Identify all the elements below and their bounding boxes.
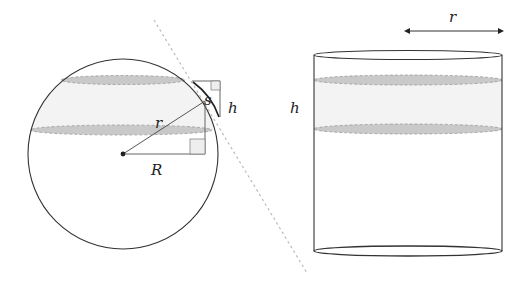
label-h-cylinder: h	[290, 99, 300, 117]
cylinder-bottom-ellipse	[314, 246, 502, 256]
label-s: s	[204, 91, 212, 109]
sphere-center-dot	[121, 152, 126, 157]
cylinder-zone-top-ellipse	[314, 75, 502, 85]
cylinder-zone-band	[314, 80, 502, 129]
label-r-cylinder: r	[449, 8, 457, 26]
label-r-sphere: r	[155, 114, 163, 132]
cylinder-zone-bottom-ellipse	[314, 124, 502, 134]
cylinder-top-ellipse	[314, 51, 502, 60]
sphere-zone-top-ellipse	[61, 76, 185, 85]
label-h-sphere: h	[228, 99, 238, 117]
arrowhead-right-icon	[498, 28, 504, 34]
label-R: R	[150, 161, 162, 179]
inner-right-angle	[190, 139, 205, 154]
tangent-line	[154, 20, 307, 273]
diagram-canvas: r R s h r h	[0, 0, 528, 288]
cylinder-figure: r h	[290, 8, 504, 256]
arrowhead-left-icon	[404, 28, 410, 34]
sphere-zone-bottom-ellipse	[30, 125, 212, 135]
sphere-figure: r R s h	[20, 20, 307, 273]
tangent-triangle-right-angle	[211, 81, 220, 90]
